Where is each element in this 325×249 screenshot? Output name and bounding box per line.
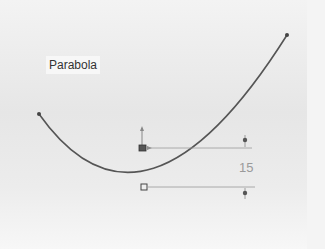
dimension-arrow-top[interactable]	[243, 135, 247, 147]
sketch-geometry	[0, 0, 325, 249]
left-endpoint[interactable]	[37, 112, 41, 116]
parabola-callout-label: Parabola	[46, 56, 100, 74]
origin-icon	[139, 126, 152, 151]
dimension-arrow-bottom[interactable]	[243, 188, 247, 199]
sketch-canvas[interactable]: Parabola 15	[0, 0, 325, 249]
right-endpoint[interactable]	[285, 33, 289, 37]
vertex-point[interactable]	[141, 184, 147, 190]
dimension-value[interactable]: 15	[239, 160, 253, 175]
